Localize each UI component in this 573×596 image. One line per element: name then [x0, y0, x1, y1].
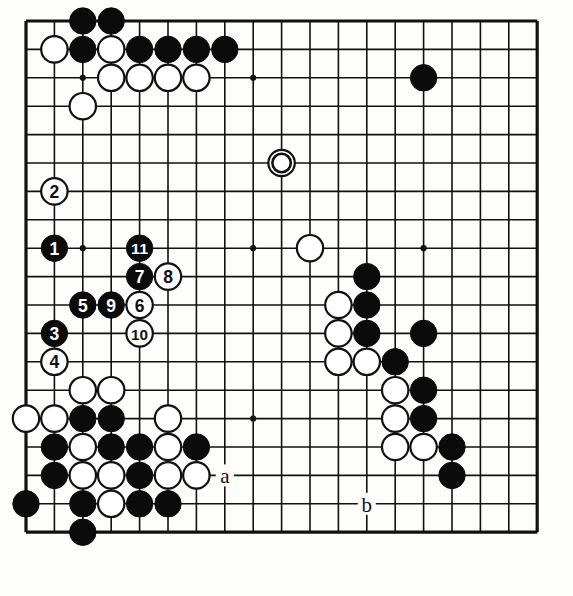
white-stone[interactable] [354, 349, 380, 375]
white-stone[interactable] [98, 65, 124, 91]
black-stone[interactable] [410, 65, 436, 91]
white-stone[interactable] [183, 65, 209, 91]
move-number-4: 4 [50, 352, 60, 372]
black-stone[interactable] [70, 8, 96, 34]
star-point [250, 416, 256, 422]
black-stone[interactable] [382, 349, 408, 375]
white-stone[interactable] [410, 434, 436, 460]
white-stone[interactable] [70, 377, 96, 403]
black-stone[interactable] [183, 36, 209, 62]
move-number-11: 11 [131, 240, 148, 257]
white-stone[interactable] [297, 235, 323, 261]
move-number-2: 2 [50, 182, 60, 202]
white-stone[interactable] [98, 491, 124, 517]
black-stone[interactable] [439, 434, 465, 460]
move-number-7: 7 [135, 267, 145, 287]
white-stone[interactable] [41, 36, 67, 62]
black-stone[interactable] [183, 434, 209, 460]
black-stone[interactable] [98, 434, 124, 460]
star-point [80, 75, 86, 81]
move-number-5: 5 [78, 296, 88, 316]
white-stone[interactable] [155, 462, 181, 488]
black-stone[interactable] [98, 405, 124, 431]
black-stone[interactable] [41, 462, 67, 488]
black-stone[interactable] [354, 263, 380, 289]
white-stone[interactable] [382, 434, 408, 460]
point-label-a: a [220, 464, 230, 488]
white-stone[interactable] [98, 377, 124, 403]
black-stone[interactable] [126, 491, 152, 517]
black-stone[interactable] [70, 36, 96, 62]
move-number-1: 1 [50, 239, 60, 259]
move-number-3: 3 [50, 324, 60, 344]
black-stone[interactable] [41, 434, 67, 460]
black-stone[interactable] [410, 405, 436, 431]
white-stone[interactable] [325, 292, 351, 318]
white-stone[interactable] [13, 405, 39, 431]
move-number-10: 10 [131, 326, 148, 343]
white-stone[interactable] [70, 434, 96, 460]
white-stone[interactable] [70, 93, 96, 119]
black-stone[interactable] [410, 320, 436, 346]
diagram-page: 1234567891011 ab [0, 0, 573, 596]
black-stone[interactable] [155, 36, 181, 62]
go-board[interactable]: 1234567891011 ab [0, 0, 573, 596]
board-point-labels: ab [216, 464, 376, 516]
star-point [421, 245, 427, 251]
white-stone[interactable] [155, 405, 181, 431]
white-stone[interactable] [41, 405, 67, 431]
white-stone[interactable] [183, 462, 209, 488]
white-stone[interactable] [382, 405, 408, 431]
star-point [80, 245, 86, 251]
black-stone[interactable] [126, 434, 152, 460]
white-stone[interactable] [155, 434, 181, 460]
board-marked-stones[interactable] [268, 150, 294, 176]
black-stone[interactable] [70, 519, 96, 545]
white-stone[interactable] [126, 65, 152, 91]
star-point [250, 75, 256, 81]
point-label-b: b [362, 493, 373, 517]
black-stone[interactable] [126, 462, 152, 488]
white-stone[interactable] [325, 349, 351, 375]
go-board-canvas[interactable]: 1234567891011 ab [0, 0, 573, 596]
move-number-8: 8 [163, 267, 173, 287]
black-stone[interactable] [212, 36, 238, 62]
black-stone[interactable] [439, 462, 465, 488]
white-stone[interactable] [98, 36, 124, 62]
black-stone[interactable] [13, 491, 39, 517]
black-stone[interactable] [126, 36, 152, 62]
black-stone[interactable] [354, 320, 380, 346]
move-number-9: 9 [106, 296, 116, 316]
black-stone[interactable] [98, 8, 124, 34]
white-stone[interactable] [325, 320, 351, 346]
white-stone[interactable] [98, 462, 124, 488]
white-stone[interactable] [382, 377, 408, 403]
move-number-6: 6 [135, 296, 145, 316]
black-stone[interactable] [155, 491, 181, 517]
star-point [250, 245, 256, 251]
black-stone[interactable] [354, 292, 380, 318]
black-stone[interactable] [70, 405, 96, 431]
white-stone[interactable] [155, 65, 181, 91]
black-stone[interactable] [70, 491, 96, 517]
black-stone[interactable] [410, 377, 436, 403]
white-stone[interactable] [70, 462, 96, 488]
